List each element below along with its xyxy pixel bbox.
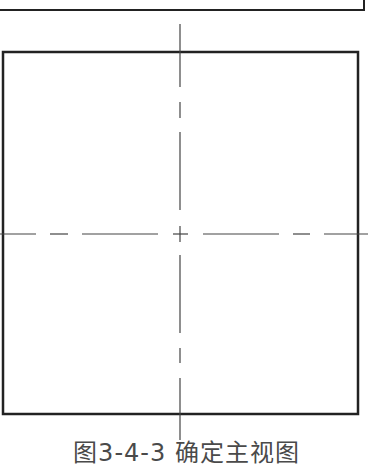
- figure-caption: 图3-4-3 确定主视图: [0, 433, 373, 468]
- top-box-outline: [0, 0, 364, 10]
